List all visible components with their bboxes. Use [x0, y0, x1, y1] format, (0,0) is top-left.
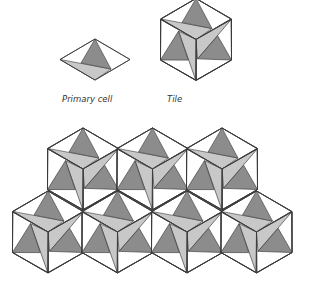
- primary-cell-label: Primary cell: [62, 94, 112, 104]
- tiling-diagram: [0, 0, 310, 285]
- primary-cell: [60, 39, 130, 80]
- tiling: [0, 128, 310, 283]
- tile-label: Tile: [167, 94, 182, 104]
- tile: [143, 0, 249, 90]
